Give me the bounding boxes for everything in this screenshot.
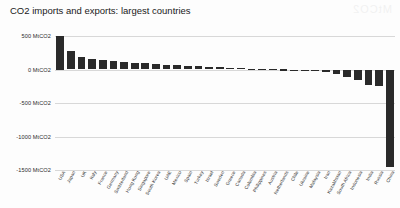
bar	[78, 57, 86, 70]
bar	[120, 62, 128, 69]
bar	[354, 70, 362, 81]
paper-watermark: MtCO2	[302, 4, 392, 38]
watermark-text: MtCO2	[352, 4, 392, 15]
bar	[333, 70, 341, 74]
bar	[301, 70, 309, 71]
bar	[131, 63, 139, 70]
bar	[258, 69, 266, 70]
x-tick-label: Sweden	[213, 170, 225, 188]
bar	[237, 68, 245, 69]
x-tick-label: Spain	[183, 170, 193, 183]
x-tick-label: Iran	[323, 170, 331, 180]
bar	[205, 67, 213, 70]
bar	[216, 67, 224, 69]
y-tick-label: 500 MtCO2	[21, 33, 51, 39]
bar	[184, 66, 192, 69]
x-axis-labels: USAJapanUKItalyFranceGermanySwitzerlandH…	[55, 170, 395, 208]
x-tick-label: India	[365, 170, 374, 182]
bar	[88, 59, 96, 69]
bar	[322, 70, 330, 73]
bar	[343, 70, 351, 77]
y-tick-label: -1000 MtCO2	[16, 134, 51, 140]
bar	[290, 70, 298, 71]
bar	[269, 69, 277, 70]
bar	[99, 60, 107, 69]
bar	[173, 65, 181, 69]
bar	[163, 65, 171, 70]
chart-root: MtCO2 CO2 imports and exports: largest c…	[0, 0, 400, 208]
x-tick-label: Mexico	[171, 170, 183, 186]
x-tick-label: China	[385, 170, 395, 183]
x-tick-label: Italy	[89, 170, 98, 180]
bar	[56, 36, 64, 70]
x-tick-label: Israel	[205, 170, 215, 183]
plot-area: 500 MtCO20 MtCO2-500 MtCO2-1000 MtCO2-15…	[55, 36, 395, 170]
bar	[280, 69, 288, 70]
x-tick-label: UAE	[163, 170, 172, 181]
x-tick-label: USA	[57, 170, 66, 181]
y-tick-label: -500 MtCO2	[20, 100, 51, 106]
bar	[141, 63, 149, 69]
bar	[226, 68, 234, 70]
y-tick-label: 0 MtCO2	[28, 67, 51, 73]
bar	[67, 51, 75, 69]
x-tick-label: Russia	[373, 170, 384, 185]
bar	[311, 70, 319, 71]
x-tick-label: Turkey	[193, 170, 204, 185]
bar	[365, 70, 373, 85]
bar	[375, 70, 383, 87]
bar	[152, 64, 160, 69]
bar	[110, 61, 118, 70]
chart-title: CO2 imports and exports: largest countri…	[10, 5, 191, 16]
x-tick-label: Japan	[66, 170, 77, 184]
bar	[248, 69, 256, 70]
bar-series	[55, 36, 395, 170]
x-tick-label: Chile	[290, 170, 300, 182]
bar	[195, 66, 203, 69]
bar	[386, 70, 394, 167]
x-tick-label: UK	[80, 170, 88, 178]
y-tick-label: -1500 MtCO2	[16, 167, 51, 173]
